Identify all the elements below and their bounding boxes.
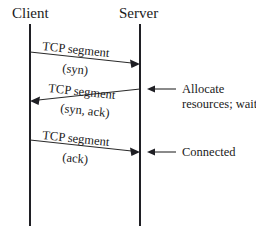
- note-allocate-line-2: resources; wait: [182, 97, 256, 111]
- message-ack-arrowhead: [130, 148, 140, 156]
- note-connected: Connected: [147, 145, 236, 159]
- message-syn-ack-secondary-label: (syn, ack): [60, 101, 110, 120]
- message-syn: TCP segment (syn): [30, 39, 140, 78]
- message-syn-ack: TCP segment (syn, ack): [30, 81, 140, 120]
- message-ack-primary-label: TCP segment: [42, 128, 111, 149]
- note-allocate-arrowhead: [147, 86, 155, 93]
- message-ack-secondary-label: (ack): [62, 150, 89, 167]
- note-connected-line-1: Connected: [182, 145, 236, 159]
- message-syn-ack-arrowhead: [30, 97, 40, 105]
- note-allocate-resources: Allocate resources; wait: [147, 82, 256, 111]
- message-syn-arrowhead: [130, 60, 140, 68]
- participant-label-server: Server: [119, 5, 158, 21]
- note-connected-arrowhead: [147, 149, 155, 156]
- message-syn-secondary-label: (syn): [62, 61, 89, 78]
- message-ack: TCP segment (ack): [30, 128, 140, 167]
- message-syn-ack-primary-label: TCP segment: [48, 81, 117, 102]
- note-allocate-line-1: Allocate: [182, 82, 225, 96]
- participant-label-client: Client: [12, 5, 49, 21]
- tcp-handshake-diagram: Client Server TCP segment (syn) TCP segm…: [0, 0, 256, 236]
- diagram-canvas: Client Server TCP segment (syn) TCP segm…: [0, 0, 256, 236]
